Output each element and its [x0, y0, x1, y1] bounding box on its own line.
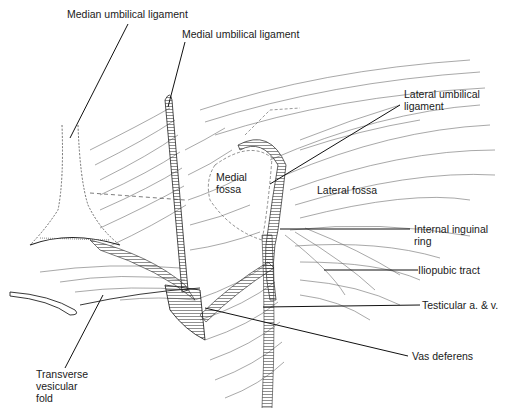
label-transverse-vesicular-fold: Transverse vesicular fold — [36, 368, 88, 404]
median-umbilical-ligament-shape — [30, 125, 120, 245]
leader-medial — [168, 42, 185, 107]
dark-junction-shape — [165, 285, 205, 340]
medial-umbilical-ligament-shape — [165, 95, 188, 292]
label-lateral-umbilical-ligament: Lateral umbilical ligament — [404, 88, 480, 112]
leader-median — [70, 24, 128, 138]
label-medial-umbilical-ligament: Medial umbilical ligament — [182, 28, 299, 40]
leader-lateral — [270, 105, 400, 184]
label-testicular-vessels: Testicular a. & v. — [422, 299, 498, 311]
leader-vas-deferens — [205, 308, 408, 356]
label-internal-inguinal-ring: Internal inguinal ring — [414, 223, 488, 247]
leader-transverse — [65, 295, 103, 368]
dashed-reference-line-2 — [245, 108, 300, 135]
label-lateral-fossa: Lateral fossa — [317, 184, 377, 196]
label-medial-fossa: Medial fossa — [216, 171, 247, 195]
medial-fossa-outline — [208, 150, 272, 240]
dashed-reference-line — [90, 193, 185, 200]
anatomy-figure: Median umbilical ligament Medial umbilic… — [0, 0, 505, 408]
anatomy-drawing — [0, 0, 505, 408]
label-iliopubic-tract: Iliopubic tract — [418, 264, 480, 276]
label-median-umbilical-ligament: Median umbilical ligament — [67, 8, 188, 20]
leader-lines — [65, 24, 420, 368]
label-vas-deferens: Vas deferens — [412, 350, 473, 362]
